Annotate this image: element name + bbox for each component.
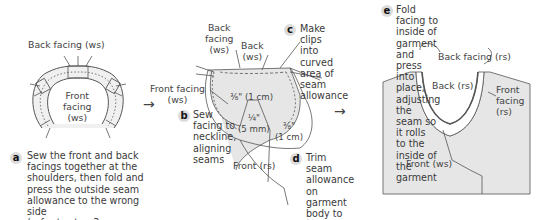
label-front-ws: Front (ws) bbox=[406, 158, 452, 169]
step-d-instruction: Trim seam allowance on garment body to ¼… bbox=[306, 152, 354, 220]
label-back-facing-rs: Back facing (rs) bbox=[438, 51, 511, 62]
step-d-badge: d bbox=[290, 153, 302, 165]
step-b-instruction: Sew facing to neckline, aligning seams bbox=[193, 109, 236, 165]
step-a-instruction: Sew the front and back facings together … bbox=[27, 150, 150, 220]
step-c-instruction: Make clips into curved area of seam allo… bbox=[300, 23, 348, 101]
label-seam-1-4: ¼" (5 mm) bbox=[238, 113, 270, 135]
label-seam-3-8-b: ⅜" (1 cm) bbox=[275, 121, 303, 143]
label-front-rs: Front (rs) bbox=[233, 160, 275, 171]
arrow-right-2: → bbox=[334, 106, 346, 117]
step-a-badge: a bbox=[10, 152, 22, 164]
label-front-facing-rs: Front facing (rs) bbox=[496, 84, 524, 117]
step-a: a Sew the front and back facings togethe… bbox=[10, 150, 150, 216]
step-b-badge: b bbox=[178, 110, 190, 122]
step-e-badge: e bbox=[381, 5, 393, 17]
label-back-facing-ws-b: Back facing (ws) bbox=[205, 22, 233, 55]
label-front-facing-ws: Front facing (ws) bbox=[63, 90, 91, 123]
step-c-badge: c bbox=[284, 24, 296, 36]
label-seam-3-8: ⅜" (1 cm) bbox=[230, 92, 273, 103]
label-back-rs: Back (rs) bbox=[432, 80, 473, 91]
step-e-instruction: Fold facing to inside of garment and pre… bbox=[396, 4, 440, 183]
label-back-ws: Back (ws) bbox=[241, 40, 264, 62]
label-back-facing-ws: Back facing (ws) bbox=[28, 39, 105, 50]
label-front-facing-ws-b: Front facing (ws) bbox=[150, 83, 205, 105]
